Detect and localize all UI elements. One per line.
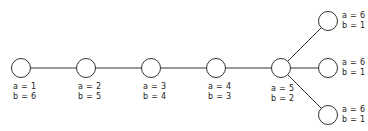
- node-circle: [319, 12, 338, 31]
- node-circle: [77, 59, 96, 78]
- node-label-6: a = 6b = 1: [342, 11, 365, 31]
- node-circle: [272, 59, 291, 78]
- node-circle: [319, 106, 338, 125]
- node-label-4: a = 4b = 3: [208, 82, 231, 102]
- node-circle: [142, 59, 161, 78]
- node-circle: [12, 59, 31, 78]
- tree-diagram: a = 1b = 6 a = 2b = 5 a = 3b = 4 a = 4b …: [0, 0, 368, 131]
- node-label-5: a = 5b = 2: [271, 84, 294, 104]
- node-label-7: a = 6b = 1: [342, 58, 365, 78]
- node-label-3: a = 3b = 4: [143, 82, 166, 102]
- tree-graphic: [0, 0, 368, 131]
- node-circle: [207, 59, 226, 78]
- node-label-1: a = 1b = 6: [13, 82, 36, 102]
- node-circle: [319, 59, 338, 78]
- node-label-2: a = 2b = 5: [78, 82, 101, 102]
- node-label-8: a = 6b = 1: [342, 105, 365, 125]
